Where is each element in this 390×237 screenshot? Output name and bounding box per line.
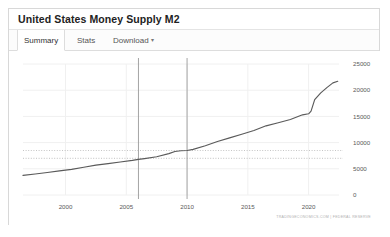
tab-bar: Summary Stats Download▾ xyxy=(9,30,379,51)
tab-summary[interactable]: Summary xyxy=(17,30,65,51)
svg-text:15000: 15000 xyxy=(353,113,371,120)
chart-card: United States Money Supply M2 Summary St… xyxy=(8,8,380,225)
title-bar: United States Money Supply M2 xyxy=(9,9,379,30)
svg-text:20000: 20000 xyxy=(353,86,371,93)
svg-text:0: 0 xyxy=(353,191,357,198)
svg-text:25000: 25000 xyxy=(353,60,371,67)
svg-text:2015: 2015 xyxy=(241,203,255,210)
chevron-down-icon: ▾ xyxy=(151,30,154,51)
svg-text:5000: 5000 xyxy=(353,165,367,172)
svg-text:2000: 2000 xyxy=(59,203,73,210)
vertical-marker-lines xyxy=(138,58,187,199)
horizontal-dotted-lines xyxy=(23,150,343,158)
chart-plot-area[interactable]: 0500010000150002000025000 20002005201020… xyxy=(9,51,381,226)
svg-text:10000: 10000 xyxy=(353,139,371,146)
y-axis-tick-labels: 0500010000150002000025000 xyxy=(353,60,371,198)
tab-download[interactable]: Download▾ xyxy=(107,30,160,51)
tab-download-label: Download xyxy=(113,36,149,45)
svg-text:2005: 2005 xyxy=(119,203,133,210)
data-series-line xyxy=(23,81,338,175)
svg-text:2020: 2020 xyxy=(302,203,316,210)
grid-lines xyxy=(23,64,339,195)
tab-summary-label: Summary xyxy=(24,36,58,45)
line-chart: 0500010000150002000025000 20002005201020… xyxy=(9,51,381,226)
attribution-text: TRADINGECONOMICS.COM | FEDERAL RESERVE xyxy=(276,215,371,219)
tab-stats[interactable]: Stats xyxy=(71,30,101,51)
svg-text:2010: 2010 xyxy=(180,203,194,210)
page-title: United States Money Supply M2 xyxy=(18,13,180,25)
x-axis-tick-labels: 20002005201020152020 xyxy=(59,203,316,210)
tab-stats-label: Stats xyxy=(77,36,95,45)
